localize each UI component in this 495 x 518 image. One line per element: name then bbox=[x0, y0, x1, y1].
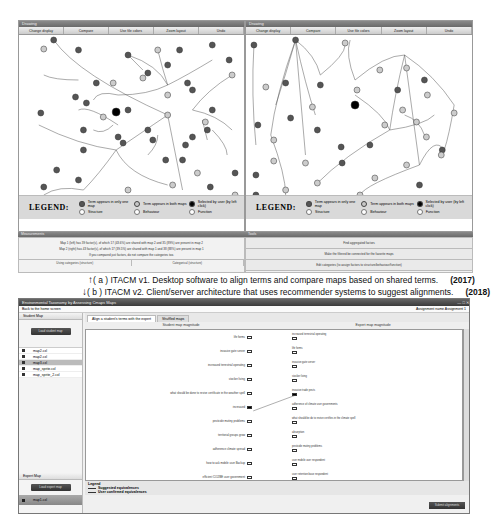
student-term[interactable]: invasive gate server bbox=[220, 349, 252, 353]
dark-node-icon bbox=[306, 201, 312, 207]
legend-label: Structure bbox=[88, 210, 103, 214]
assignment-name: Assignment name Assignment 1 bbox=[416, 307, 466, 311]
student-term[interactable]: pesticide mutiny problems bbox=[213, 419, 252, 423]
footer-tab[interactable]: Categorical (structure) bbox=[132, 260, 245, 266]
file-colors-button[interactable]: Use file colors bbox=[336, 27, 381, 34]
alignment-legend: Legend Suggested equivalences User confi… bbox=[85, 481, 469, 495]
behaviour-ring-icon bbox=[361, 209, 367, 215]
alignment-canvas[interactable]: life forms invasive gate server increase… bbox=[85, 329, 463, 481]
load-student-map-button[interactable]: Load student map bbox=[31, 328, 71, 335]
expert-term[interactable]: what should be do to revive certifies in… bbox=[292, 417, 355, 424]
file-icon bbox=[22, 499, 25, 502]
expert-term[interactable]: invasive gate server bbox=[292, 361, 315, 368]
find-aggregated-factors-button[interactable]: Find aggregated factors bbox=[246, 238, 472, 249]
structure-ring-icon bbox=[306, 209, 312, 215]
edit-categories-button[interactable]: Edit categories (to assign factors to st… bbox=[246, 260, 472, 271]
behaviour-ring-icon bbox=[134, 209, 140, 215]
caption-text: ( a ) ITACM v1. Desktop software to alig… bbox=[93, 275, 438, 285]
expert-term[interactable]: stocker living bbox=[292, 375, 307, 382]
term-anchor bbox=[247, 434, 252, 437]
student-map-section-header[interactable]: Student Map bbox=[19, 313, 82, 320]
window-controls[interactable]: — □ ✕ bbox=[457, 299, 469, 306]
expert-term[interactable]: user mobile user respondent bbox=[292, 459, 325, 466]
file-item[interactable]: map_sprite_2.cxl bbox=[19, 372, 82, 378]
file-icon bbox=[22, 349, 25, 352]
v1-left-map-panel: Drawing Change display Compare Use file … bbox=[18, 20, 245, 232]
concept-map-graph[interactable] bbox=[246, 35, 472, 195]
student-term[interactable]: stocker living bbox=[229, 377, 252, 381]
caption-text: ( b ) ITACM v2. Client/server architectu… bbox=[87, 287, 453, 297]
student-term[interactable]: how to ask mobile user Backup bbox=[206, 461, 252, 465]
student-term[interactable]: what should be done to revive certificat… bbox=[170, 391, 252, 395]
load-expert-map-button[interactable]: Load expert map bbox=[31, 484, 71, 491]
tab-shuffled-maps[interactable]: Shuffled maps bbox=[157, 315, 189, 322]
make-filtered-connected-button[interactable]: Make the filtered be connected for the f… bbox=[246, 249, 472, 260]
zoom-layout-button[interactable]: Zoom layout bbox=[154, 27, 199, 34]
window-title: Environmental Taxonomy by Assessing Cmap… bbox=[22, 299, 116, 306]
selected-node-icon bbox=[417, 201, 423, 207]
measurement-line: If you compared just factors, do not com… bbox=[19, 252, 244, 258]
term-anchor bbox=[247, 462, 252, 465]
student-column-header: Student map magnitude bbox=[85, 322, 277, 329]
expert-term[interactable]: pesticide mutiny problems bbox=[292, 445, 322, 452]
file-icon bbox=[22, 367, 25, 370]
expert-term[interactable]: adherence of climate user governments bbox=[292, 403, 338, 410]
caption-year: (2018) bbox=[465, 287, 490, 297]
expert-term[interactable]: life forms bbox=[292, 347, 303, 354]
term-anchor bbox=[247, 406, 252, 409]
column-headers: Student map magnitude Expert map magnitu… bbox=[85, 322, 469, 329]
main-area: Align a student's terms with the expert … bbox=[85, 313, 469, 513]
expert-term[interactable]: absorption bbox=[292, 431, 304, 438]
light-node-icon bbox=[361, 201, 367, 207]
tab-bar: Align a student's terms with the expert … bbox=[85, 313, 469, 322]
term-anchor bbox=[247, 336, 252, 339]
back-home-link[interactable]: Back to the home screen bbox=[22, 307, 61, 311]
legend-label: Function bbox=[426, 210, 440, 214]
compare-button[interactable]: Compare bbox=[291, 27, 336, 34]
legend-title: LEGEND: bbox=[19, 203, 79, 212]
concept-map-graph[interactable] bbox=[19, 35, 244, 195]
vertical-scrollbar[interactable] bbox=[463, 329, 469, 481]
legend-label: Term appears in both maps bbox=[370, 202, 414, 206]
expert-file-item[interactable]: map1.cxl bbox=[19, 495, 82, 505]
expert-term-selected[interactable]: invasive trade pests bbox=[292, 389, 315, 396]
student-term[interactable]: adherence climate spread bbox=[213, 447, 252, 451]
caption-a: ↑( a ) ITACM v1. Desktop software to ali… bbox=[88, 274, 495, 285]
expert-map-section-header[interactable]: Expert Map bbox=[19, 473, 82, 480]
legend-label: Term appears in only one map bbox=[88, 200, 134, 208]
undo-button[interactable]: Undo bbox=[199, 27, 244, 34]
legend-title: LEGEND: bbox=[246, 203, 306, 212]
legend-label: Function bbox=[198, 210, 212, 214]
tab-align-terms[interactable]: Align a student's terms with the expert bbox=[87, 315, 156, 322]
change-display-button[interactable]: Change display bbox=[19, 27, 64, 34]
term-anchor bbox=[247, 476, 252, 479]
student-term[interactable]: increased terrestrial operating bbox=[208, 363, 252, 367]
student-term-selected[interactable]: increased bbox=[233, 405, 252, 409]
zoom-layout-button[interactable]: Zoom layout bbox=[382, 27, 427, 34]
legend-label: Term appears in only one map bbox=[315, 200, 361, 208]
student-term[interactable]: efficient CO2/BE user government bbox=[203, 475, 252, 479]
light-node-icon bbox=[134, 201, 140, 207]
sidebar: Student Map Load student map map2.cxl ma… bbox=[19, 313, 83, 513]
top-nav: Back to the home screen Assignment name … bbox=[19, 306, 469, 313]
student-term[interactable]: territorial groups grow bbox=[218, 433, 252, 437]
dark-node-icon bbox=[79, 201, 85, 207]
expert-term[interactable]: user retention base respondent bbox=[292, 473, 328, 480]
toolbar: Change display Compare Use file colors Z… bbox=[246, 27, 472, 35]
expert-column-header: Expert map magnitude bbox=[277, 322, 469, 329]
legend-label: Behaviour bbox=[143, 210, 159, 214]
term-anchor bbox=[247, 350, 252, 353]
compare-button[interactable]: Compare bbox=[64, 27, 109, 34]
student-term[interactable]: life forms bbox=[234, 335, 252, 339]
file-colors-button[interactable]: Use file colors bbox=[109, 27, 154, 34]
undo-button[interactable]: Undo bbox=[427, 27, 472, 34]
submit-alignments-button[interactable]: Submit alignments bbox=[429, 502, 465, 509]
expert-term[interactable]: increased terrestrial operating bbox=[292, 333, 326, 340]
change-display-button[interactable]: Change display bbox=[246, 27, 291, 34]
footer-tab[interactable]: Using categories (structure) bbox=[19, 260, 132, 266]
legend-label: Term appears in both maps bbox=[143, 202, 187, 206]
structure-ring-icon bbox=[79, 209, 85, 215]
term-anchor bbox=[247, 420, 252, 423]
tools-panel: Tools Find aggregated factors Make the f… bbox=[245, 232, 473, 272]
legend: LEGEND: Term appears in only one map Ter… bbox=[19, 195, 244, 219]
